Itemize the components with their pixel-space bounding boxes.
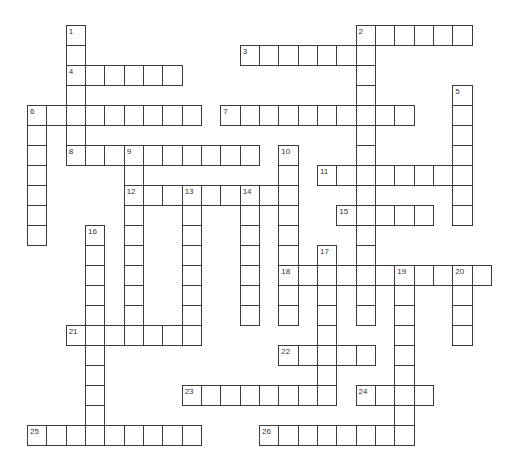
crossword-cell[interactable]	[85, 385, 105, 406]
crossword-cell[interactable]	[259, 45, 279, 66]
crossword-cell[interactable]	[27, 165, 47, 186]
crossword-cell[interactable]	[124, 205, 144, 226]
crossword-cell[interactable]	[143, 65, 163, 86]
crossword-cell[interactable]	[124, 325, 144, 346]
crossword-cell[interactable]	[85, 405, 105, 426]
crossword-cell[interactable]	[394, 285, 414, 306]
crossword-cell[interactable]	[394, 385, 414, 406]
crossword-cell[interactable]	[66, 125, 86, 146]
crossword-cell[interactable]	[356, 85, 376, 106]
crossword-cell[interactable]	[298, 385, 318, 406]
crossword-cell[interactable]: 2	[356, 25, 376, 46]
crossword-cell[interactable]	[182, 225, 202, 246]
crossword-cell[interactable]	[317, 385, 337, 406]
crossword-cell[interactable]	[298, 45, 318, 66]
crossword-cell[interactable]	[394, 425, 414, 446]
crossword-cell[interactable]	[452, 105, 472, 126]
crossword-cell[interactable]	[162, 105, 182, 126]
crossword-cell[interactable]	[85, 345, 105, 366]
crossword-cell[interactable]: 7	[220, 105, 240, 126]
crossword-cell[interactable]	[240, 205, 260, 226]
crossword-cell[interactable]: 8	[66, 145, 86, 166]
crossword-cell[interactable]	[162, 145, 182, 166]
crossword-cell[interactable]	[259, 185, 279, 206]
crossword-cell[interactable]	[240, 305, 260, 326]
crossword-cell[interactable]	[162, 185, 182, 206]
crossword-cell[interactable]	[433, 265, 453, 286]
crossword-cell[interactable]	[356, 145, 376, 166]
crossword-cell[interactable]	[27, 145, 47, 166]
crossword-cell[interactable]	[124, 65, 144, 86]
crossword-cell[interactable]	[414, 385, 434, 406]
crossword-cell[interactable]	[85, 285, 105, 306]
crossword-cell[interactable]: 1	[66, 25, 86, 46]
crossword-cell[interactable]: 12	[124, 185, 144, 206]
crossword-cell[interactable]	[356, 165, 376, 186]
crossword-cell[interactable]	[182, 325, 202, 346]
crossword-cell[interactable]	[143, 185, 163, 206]
crossword-cell[interactable]	[143, 105, 163, 126]
crossword-cell[interactable]	[85, 105, 105, 126]
crossword-cell[interactable]	[452, 125, 472, 146]
crossword-cell[interactable]	[278, 105, 298, 126]
crossword-cell[interactable]	[201, 385, 221, 406]
crossword-cell[interactable]	[414, 265, 434, 286]
crossword-cell[interactable]	[317, 365, 337, 386]
crossword-cell[interactable]	[278, 165, 298, 186]
crossword-cell[interactable]	[336, 345, 356, 366]
crossword-cell[interactable]	[85, 145, 105, 166]
crossword-cell[interactable]	[85, 425, 105, 446]
crossword-cell[interactable]	[182, 145, 202, 166]
crossword-cell[interactable]	[375, 165, 395, 186]
crossword-cell[interactable]	[27, 205, 47, 226]
crossword-cell[interactable]	[278, 45, 298, 66]
crossword-cell[interactable]	[220, 185, 240, 206]
crossword-cell[interactable]	[182, 105, 202, 126]
crossword-cell[interactable]	[104, 105, 124, 126]
crossword-cell[interactable]: 25	[27, 425, 47, 446]
crossword-cell[interactable]	[240, 245, 260, 266]
crossword-cell[interactable]	[182, 265, 202, 286]
crossword-cell[interactable]	[356, 225, 376, 246]
crossword-cell[interactable]	[278, 305, 298, 326]
crossword-cell[interactable]	[240, 105, 260, 126]
crossword-cell[interactable]	[452, 305, 472, 326]
crossword-cell[interactable]	[356, 345, 376, 366]
crossword-cell[interactable]: 17	[317, 245, 337, 266]
crossword-cell[interactable]	[259, 105, 279, 126]
crossword-cell[interactable]	[278, 245, 298, 266]
crossword-cell[interactable]	[452, 205, 472, 226]
crossword-cell[interactable]	[394, 365, 414, 386]
crossword-cell[interactable]	[66, 45, 86, 66]
crossword-cell[interactable]	[298, 425, 318, 446]
crossword-cell[interactable]	[240, 385, 260, 406]
crossword-cell[interactable]	[124, 265, 144, 286]
crossword-cell[interactable]	[394, 345, 414, 366]
crossword-cell[interactable]	[394, 205, 414, 226]
crossword-cell[interactable]	[278, 285, 298, 306]
crossword-cell[interactable]: 21	[66, 325, 86, 346]
crossword-cell[interactable]: 23	[182, 385, 202, 406]
crossword-cell[interactable]	[85, 265, 105, 286]
crossword-cell[interactable]	[414, 205, 434, 226]
crossword-cell[interactable]	[375, 105, 395, 126]
crossword-cell[interactable]	[162, 325, 182, 346]
crossword-cell[interactable]: 22	[278, 345, 298, 366]
crossword-cell[interactable]	[394, 325, 414, 346]
crossword-cell[interactable]	[433, 25, 453, 46]
crossword-cell[interactable]	[452, 145, 472, 166]
crossword-cell[interactable]	[356, 305, 376, 326]
crossword-cell[interactable]	[143, 425, 163, 446]
crossword-cell[interactable]: 9	[124, 145, 144, 166]
crossword-cell[interactable]	[27, 185, 47, 206]
crossword-cell[interactable]	[104, 65, 124, 86]
crossword-cell[interactable]	[356, 265, 376, 286]
crossword-cell[interactable]	[356, 125, 376, 146]
crossword-cell[interactable]	[298, 265, 318, 286]
crossword-cell[interactable]	[356, 425, 376, 446]
crossword-cell[interactable]	[452, 325, 472, 346]
crossword-cell[interactable]	[317, 45, 337, 66]
crossword-cell[interactable]	[66, 85, 86, 106]
crossword-cell[interactable]	[375, 25, 395, 46]
crossword-cell[interactable]	[452, 25, 472, 46]
